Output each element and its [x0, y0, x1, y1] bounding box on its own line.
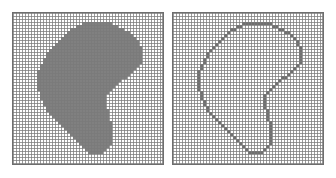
grid-figure: Rasterized region and its boundary Fille… — [0, 0, 336, 178]
panel-filled-region[interactable]: Filled region — [12, 12, 164, 165]
filled-region-grid-canvas[interactable] — [13, 13, 163, 164]
panel-boundary-outline[interactable]: Boundary outline — [172, 12, 324, 165]
boundary-outline-grid-canvas[interactable] — [173, 13, 323, 164]
